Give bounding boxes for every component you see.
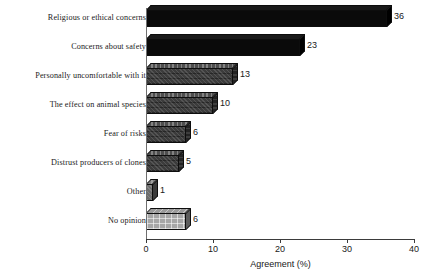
value-label-5: 5 — [186, 156, 191, 166]
value-label-6: 1 — [160, 185, 165, 195]
x-tick-label-4: 40 — [402, 244, 426, 255]
x-tick-3 — [347, 239, 348, 243]
bar-7-front-face — [146, 213, 186, 230]
bar-chart: Religious or ethical concerns Concerns a… — [0, 0, 427, 276]
bar-2-front-face — [146, 68, 233, 85]
category-label-7: No opinion — [0, 216, 146, 226]
x-tick-label-1: 10 — [201, 244, 225, 255]
bar-5-side-face — [179, 150, 184, 172]
value-label-4: 6 — [193, 127, 198, 137]
bar-3-side-face — [213, 92, 218, 114]
category-label-1: Concerns about safety — [0, 42, 146, 52]
value-label-1: 23 — [307, 40, 317, 50]
x-tick-4 — [414, 239, 415, 243]
x-axis-title: Agreement (%) — [146, 259, 415, 270]
category-label-2: Personally uncomfortable with it — [0, 71, 146, 81]
x-tick-label-3: 30 — [335, 244, 359, 255]
bar-0-side-face — [387, 5, 392, 27]
bar-1-side-face — [300, 34, 305, 56]
value-label-7: 6 — [193, 214, 198, 224]
x-tick-label-2: 20 — [268, 244, 292, 255]
category-label-6: Other — [0, 187, 146, 197]
category-label-5: Distrust producers of clones — [0, 158, 146, 168]
bar-4-side-face — [186, 121, 191, 143]
category-label-3: The effect on animal species — [0, 100, 146, 110]
x-tick-2 — [280, 239, 281, 243]
category-label-0: Religious or ethical concerns — [0, 13, 146, 23]
bar-2-side-face — [233, 63, 238, 85]
value-label-0: 36 — [394, 11, 404, 21]
bar-0-front-face — [146, 10, 387, 27]
bar-1-front-face — [146, 39, 300, 56]
value-label-2: 13 — [240, 69, 250, 79]
y-axis-line — [146, 8, 147, 239]
bar-3-front-face — [146, 97, 213, 114]
x-tick-label-0: 0 — [134, 244, 158, 255]
bar-6-front-face — [146, 184, 153, 201]
bar-5-front-face — [146, 155, 179, 172]
value-label-3: 10 — [220, 98, 230, 108]
plot-area: Religious or ethical concerns Concerns a… — [0, 0, 427, 276]
x-tick-0 — [146, 239, 147, 243]
category-label-4: Fear of risks — [0, 129, 146, 139]
bar-6-side-face — [153, 179, 158, 201]
bar-7-side-face — [186, 208, 191, 230]
x-tick-1 — [213, 239, 214, 243]
bar-4-front-face — [146, 126, 186, 143]
